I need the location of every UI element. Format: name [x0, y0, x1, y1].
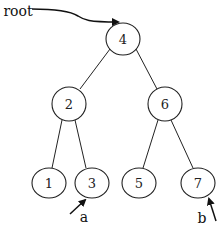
edge-2-3	[75, 120, 86, 168]
tree-node-6: 6	[148, 87, 182, 121]
pointer-b: b	[198, 199, 216, 226]
tree-node-3: 3	[75, 168, 109, 198]
node-label: 6	[161, 97, 169, 112]
pointer-label-b: b	[198, 210, 207, 226]
node-label: 2	[65, 97, 73, 112]
node-label: 7	[194, 176, 202, 191]
arrow-icon	[32, 9, 118, 22]
tree-node-2: 2	[52, 87, 86, 121]
edge-6-5	[143, 120, 158, 168]
node-label: 3	[88, 176, 96, 191]
edge-2-1	[52, 120, 62, 168]
edge-6-7	[171, 120, 193, 168]
tree-node-4: 4	[106, 23, 140, 55]
pointer-label-a: a	[80, 209, 88, 225]
edge-4-2	[80, 49, 110, 89]
tree-node-5: 5	[122, 168, 156, 198]
pointer-a: a	[70, 200, 88, 225]
pointer-root: root	[3, 3, 118, 22]
node-label: 1	[45, 176, 53, 191]
tree-node-1: 1	[32, 168, 66, 198]
node-label: 4	[119, 32, 127, 47]
edge-4-6	[136, 49, 157, 89]
tree-diagram: 4 2 6 1 3 5 7 root a b	[0, 0, 221, 227]
pointer-label-root: root	[3, 3, 33, 19]
arrow-icon	[209, 199, 216, 221]
node-label: 5	[135, 176, 143, 191]
tree-node-7: 7	[181, 168, 215, 198]
